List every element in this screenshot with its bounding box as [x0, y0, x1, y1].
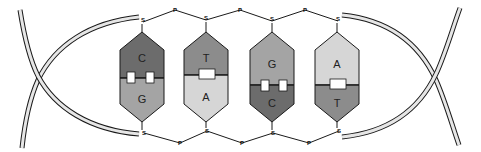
- phosphate-label: P: [173, 7, 177, 13]
- phosphate-label: P: [238, 7, 242, 13]
- base-letter-top: C: [138, 52, 146, 64]
- hydrogen-bond-box: [199, 69, 215, 79]
- base-pair-a-t: A T: [315, 23, 359, 128]
- base-letter-bottom: G: [138, 93, 147, 105]
- top-strand-labels: S S S S P P P: [141, 7, 340, 23]
- phosphate-label: P: [307, 140, 311, 146]
- sugar-label: S: [141, 17, 145, 23]
- base-pair-c-g: C G: [120, 24, 164, 130]
- base-pair-t-a: T A: [184, 22, 228, 128]
- sugar-label: S: [270, 16, 274, 22]
- sugar-label: S: [205, 128, 209, 134]
- base-letter-top: G: [268, 58, 277, 70]
- base-letter-bottom: T: [334, 97, 341, 109]
- phosphate-label: P: [240, 140, 244, 146]
- phosphate-label: P: [303, 7, 307, 13]
- base-letter-top: T: [203, 52, 210, 64]
- phosphate-label: P: [178, 140, 182, 146]
- bottom-strand-labels: S S S S P P P: [142, 128, 341, 146]
- sugar-label: S: [336, 16, 340, 22]
- dna-diagram: C G T A G C A T S S S: [0, 0, 481, 152]
- hydrogen-bond-box: [127, 72, 135, 83]
- right-helix-backbone: [342, 8, 460, 145]
- base-pair-g-c: G C: [250, 23, 294, 130]
- hydrogen-bond-box: [146, 72, 154, 83]
- sugar-label: S: [142, 130, 146, 136]
- hydrogen-bond-box: [261, 80, 269, 91]
- base-letter-top: A: [333, 58, 341, 70]
- base-letter-bottom: C: [268, 97, 276, 109]
- base-letter-bottom: A: [202, 91, 210, 103]
- sugar-label: S: [337, 128, 341, 134]
- hydrogen-bond-box: [330, 79, 346, 89]
- hydrogen-bond-box: [279, 80, 287, 91]
- sugar-label: S: [204, 15, 208, 21]
- sugar-label: S: [271, 130, 275, 136]
